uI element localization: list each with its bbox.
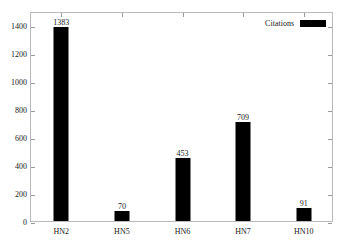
bar-value-label-hn2: 1383 xyxy=(53,18,69,27)
y-tick-mark-right xyxy=(328,83,332,84)
bar-value-label-hn7: 709 xyxy=(237,113,249,122)
y-tick-mark xyxy=(31,223,35,224)
x-tick-label-hn10: HN10 xyxy=(294,227,314,236)
bar-hn2 xyxy=(54,27,69,221)
x-tick-mark-top xyxy=(122,13,123,17)
plot-area: 0200400600800100012001400 HN2HN5HN6HN7HN… xyxy=(30,12,333,222)
legend-label-citations: Citations xyxy=(265,19,294,28)
x-tick-label-hn6: HN6 xyxy=(175,227,191,236)
y-tick-mark xyxy=(31,27,35,28)
y-tick-mark-right xyxy=(328,55,332,56)
x-tick-label-hn5: HN5 xyxy=(114,227,130,236)
x-tick-mark-top xyxy=(304,13,305,17)
legend-swatch-citations xyxy=(300,20,326,27)
y-tick-mark-right xyxy=(328,27,332,28)
x-tick-label-hn2: HN2 xyxy=(54,227,70,236)
y-tick-label: 400 xyxy=(15,163,27,171)
y-tick-mark xyxy=(31,111,35,112)
y-tick-mark xyxy=(31,167,35,168)
chart-legend: Citations xyxy=(265,19,326,28)
y-tick-mark xyxy=(31,83,35,84)
bar-hn10 xyxy=(296,208,311,221)
y-tick-label: 200 xyxy=(15,191,27,199)
y-tick-label: 0 xyxy=(23,219,27,227)
y-tick-mark xyxy=(31,139,35,140)
bar-hn6 xyxy=(175,158,190,221)
y-tick-label: 600 xyxy=(15,135,27,143)
y-tick-mark xyxy=(31,195,35,196)
y-tick-mark-right xyxy=(328,111,332,112)
y-tick-label: 1400 xyxy=(11,23,27,31)
x-tick-label-hn7: HN7 xyxy=(235,227,251,236)
y-tick-mark-right xyxy=(328,223,332,224)
y-tick-mark-right xyxy=(328,195,332,196)
y-tick-label: 800 xyxy=(15,107,27,115)
bar-value-label-hn10: 91 xyxy=(300,199,308,208)
bar-hn7 xyxy=(236,122,251,221)
y-tick-label: 1000 xyxy=(11,79,27,87)
y-tick-label: 1200 xyxy=(11,51,27,59)
x-tick-mark-top xyxy=(183,13,184,17)
y-tick-mark xyxy=(31,55,35,56)
x-tick-mark-top xyxy=(61,13,62,17)
bar-value-label-hn6: 453 xyxy=(177,149,189,158)
y-tick-mark-right xyxy=(328,139,332,140)
x-tick-mark-top xyxy=(243,13,244,17)
y-tick-mark-right xyxy=(328,167,332,168)
bar-chart: 0200400600800100012001400 HN2HN5HN6HN7HN… xyxy=(0,0,341,245)
bar-hn5 xyxy=(114,211,129,221)
bar-value-label-hn5: 70 xyxy=(118,202,126,211)
